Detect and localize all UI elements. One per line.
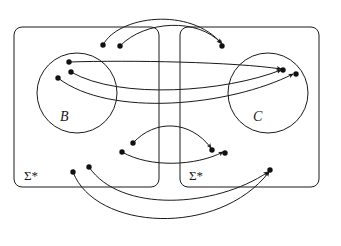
node-p-b-3 <box>55 75 60 80</box>
arrow-p-low-src-2-to-p-low-tgt <box>73 172 269 219</box>
set-label-c: C <box>253 109 263 124</box>
node-p-c-2 <box>293 71 298 76</box>
arrow-p-b-2-to-p-c-1 <box>71 70 281 90</box>
arrow-p-top-src-1-to-p-top-tgt <box>103 19 222 45</box>
node-p-b-1 <box>66 59 71 64</box>
outer-box-left <box>14 27 159 187</box>
node-p-top-src-2 <box>117 43 122 48</box>
arrow-p-top-src-2-to-p-top-tgt <box>120 25 221 46</box>
node-p-top-tgt <box>219 43 224 48</box>
node-p-top-src-1 <box>100 42 105 47</box>
node-p-low-src-2 <box>70 169 75 174</box>
node-p-mid-src-1 <box>130 140 135 145</box>
circle-b <box>37 53 117 133</box>
node-p-low-tgt <box>267 167 272 172</box>
node-p-mid-tgt-2 <box>222 150 227 155</box>
arrow-p-low-src-1-to-p-low-tgt <box>89 167 268 200</box>
node-p-low-src-1 <box>86 164 91 169</box>
sigma-star-label-right: Σ* <box>189 168 203 183</box>
arrow-p-mid-src-2-to-p-mid-tgt-2 <box>122 152 223 163</box>
node-p-mid-src-2 <box>119 149 124 154</box>
outer-box-right <box>180 27 319 187</box>
node-p-b-2 <box>68 69 73 74</box>
diagram-canvas: Σ* Σ* B C <box>0 0 341 246</box>
set-label-b: B <box>60 109 69 124</box>
node-p-mid-tgt-1 <box>209 147 214 152</box>
arrow-p-b-3-to-p-c-2 <box>58 74 293 103</box>
relation-diagram: Σ* Σ* B C <box>0 0 341 246</box>
arrow-p-b-1-to-p-c-1 <box>69 61 281 69</box>
sigma-star-label-left: Σ* <box>24 168 38 183</box>
node-p-c-1 <box>280 67 285 72</box>
arrow-p-mid-src-1-to-p-mid-tgt-1 <box>133 126 211 148</box>
